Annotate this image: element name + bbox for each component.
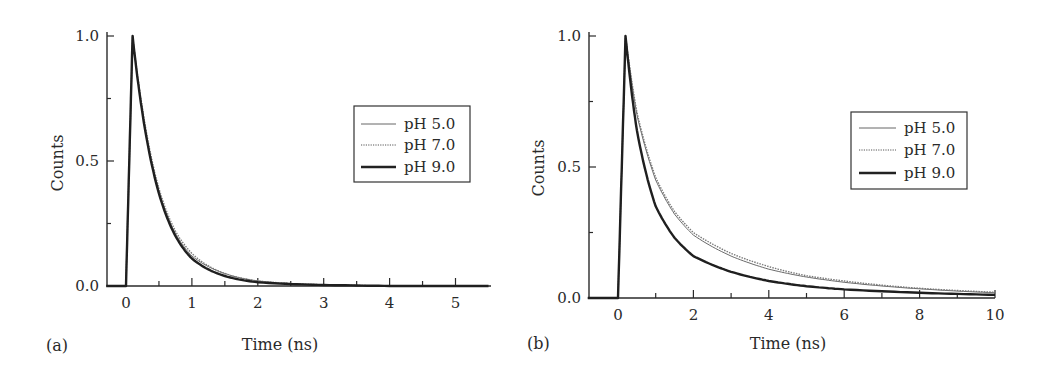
y-tick-label: 0.5 bbox=[75, 152, 99, 170]
panel-a-legend: pH 5.0 pH 7.0 pH 9.0 bbox=[354, 106, 470, 182]
y-tick-label: 1.0 bbox=[75, 27, 99, 45]
x-tick-label: 1 bbox=[187, 294, 197, 312]
x-tick-label: 8 bbox=[915, 306, 925, 324]
panel-label: (a) bbox=[46, 336, 68, 355]
legend-label: pH 5.0 bbox=[904, 119, 955, 137]
x-tick-label: 4 bbox=[385, 294, 395, 312]
legend-label: pH 9.0 bbox=[404, 158, 455, 176]
x-axis-label: Time (ns) bbox=[750, 334, 827, 353]
figure: 0.00.51.0012345 pH 5.0 pH 7.0 pH 9.0 Tim… bbox=[0, 0, 1041, 376]
x-tick-label: 6 bbox=[839, 306, 849, 324]
y-axis-label: Counts bbox=[48, 134, 67, 191]
x-tick-label: 5 bbox=[451, 294, 461, 312]
legend-label: pH 7.0 bbox=[904, 141, 955, 159]
y-tick-label: 1.0 bbox=[557, 27, 581, 45]
x-tick-label: 3 bbox=[319, 294, 329, 312]
legend-label: pH 5.0 bbox=[404, 115, 455, 133]
panel-label: (b) bbox=[527, 334, 550, 353]
panel-b: 0.00.51.00246810 pH 5.0 pH 7.0 pH 9.0 Ti… bbox=[527, 27, 1005, 353]
x-axis-label: Time (ns) bbox=[242, 335, 319, 354]
x-tick-label: 2 bbox=[253, 294, 263, 312]
panel-a: 0.00.51.0012345 pH 5.0 pH 7.0 pH 9.0 Tim… bbox=[46, 27, 491, 355]
x-tick-label: 10 bbox=[985, 306, 1004, 324]
panel-b-legend: pH 5.0 pH 7.0 pH 9.0 bbox=[851, 112, 967, 189]
legend-label: pH 9.0 bbox=[904, 164, 955, 182]
x-tick-label: 0 bbox=[613, 306, 623, 324]
x-tick-label: 2 bbox=[689, 306, 699, 324]
x-tick-label: 0 bbox=[121, 294, 131, 312]
y-tick-label: 0.0 bbox=[557, 289, 581, 307]
x-tick-label: 4 bbox=[764, 306, 774, 324]
y-tick-label: 0.0 bbox=[75, 277, 99, 295]
y-tick-label: 0.5 bbox=[557, 158, 581, 176]
y-axis-label: Counts bbox=[529, 139, 548, 196]
legend-label: pH 7.0 bbox=[404, 136, 455, 154]
